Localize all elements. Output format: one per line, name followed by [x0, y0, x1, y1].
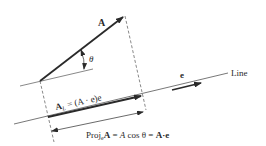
unit-vector-e-label: e: [180, 70, 184, 80]
angle-arc: [81, 50, 84, 69]
angle-label: θ: [89, 54, 94, 64]
unit-vector-e: [172, 83, 201, 90]
projection-equation: ProjeA = A cos θ = A·e: [86, 130, 169, 141]
line-label: Line: [231, 68, 248, 78]
dashed-perpendicular-tail: [40, 81, 54, 142]
reference-line: [20, 69, 93, 86]
projection-dimension-arrow: [52, 112, 143, 131]
dashed-perpendicular-head: [125, 16, 146, 110]
vector-a-label: A: [98, 17, 106, 28]
vector-projection-diagram: Line A θ AL = (A · e)e e ProjeA = A cos …: [0, 0, 266, 146]
